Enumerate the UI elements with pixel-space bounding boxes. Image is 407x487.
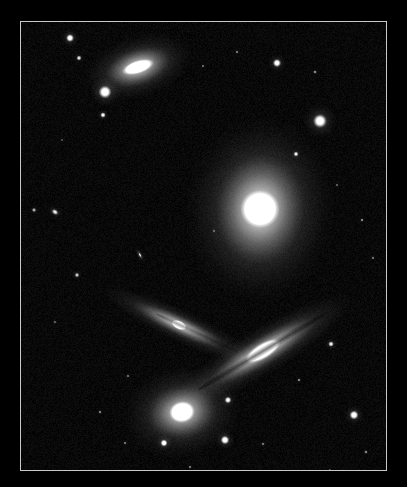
sky-field	[21, 22, 386, 470]
sky-canvas	[21, 22, 386, 470]
astronomy-image-viewer: compact galaxy group	[0, 0, 407, 487]
